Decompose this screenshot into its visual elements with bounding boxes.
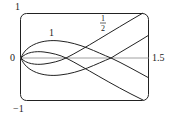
plot-frame: [21, 14, 149, 101]
curve-label-half-numerator: 1: [101, 14, 105, 23]
y-min-label: −1: [13, 103, 24, 114]
y-max-label: 1: [15, 1, 20, 12]
curve-outer-lower: [21, 35, 149, 75]
x-max-label: 1.5: [152, 52, 165, 63]
parametric-plot: 1 −1 0 1.5 1 1 2: [0, 0, 173, 118]
curve-inner-lower: [21, 13, 143, 64]
curve-label-half-denominator: 2: [101, 24, 105, 33]
x-min-label: 0: [10, 52, 15, 63]
curve-label-one: 1: [49, 27, 54, 38]
curve-inner-upper: [21, 52, 143, 100]
